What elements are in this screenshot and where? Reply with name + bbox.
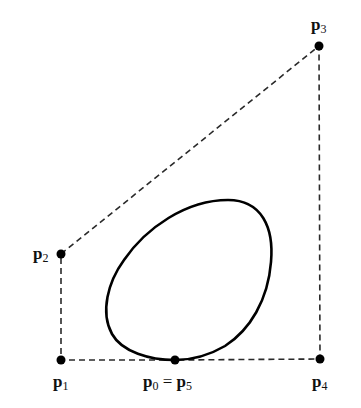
point-p1 bbox=[57, 356, 66, 365]
label-p4: p4 bbox=[312, 372, 327, 393]
control-polygon bbox=[61, 46, 320, 360]
point-p3 bbox=[315, 42, 324, 51]
label-p2: p2 bbox=[33, 244, 48, 265]
label-p1: p1 bbox=[53, 372, 68, 393]
point-p0-p5 bbox=[171, 356, 180, 365]
label-p0-equals-p5: p0 = p5 bbox=[143, 372, 192, 393]
point-p2 bbox=[57, 250, 66, 259]
closed-curve bbox=[106, 200, 271, 360]
point-p4 bbox=[316, 355, 325, 364]
label-p3: p3 bbox=[311, 15, 326, 36]
bezier-diagram: p2 p1 p3 p4 p0 = p5 bbox=[0, 0, 361, 408]
